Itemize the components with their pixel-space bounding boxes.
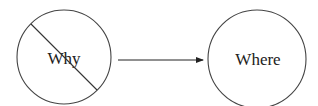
diagram-canvas: Why Where bbox=[0, 0, 318, 106]
where-label: Where bbox=[235, 50, 280, 69]
why-label: Why bbox=[47, 49, 81, 68]
strike-through-line bbox=[31, 24, 97, 90]
node-why: Why bbox=[17, 10, 111, 104]
node-where: Where bbox=[208, 10, 306, 106]
diagram-svg: Why Where bbox=[0, 0, 318, 106]
